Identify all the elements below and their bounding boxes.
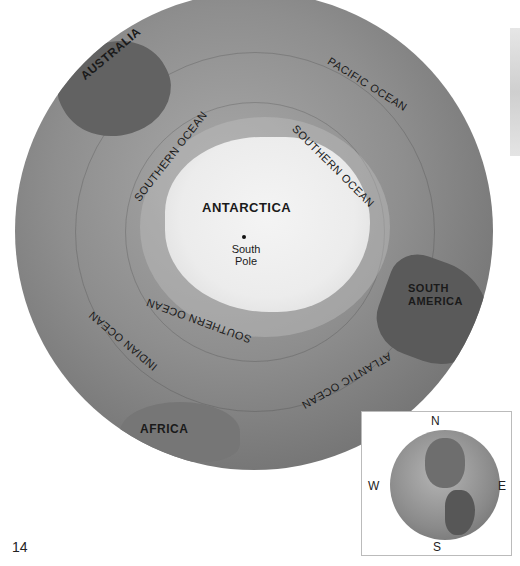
label-africa: AFRICA	[140, 422, 188, 436]
label-south-pole: South Pole	[228, 243, 264, 267]
compass-south: S	[433, 540, 441, 554]
compass-west: W	[368, 479, 379, 493]
south-america-shape	[445, 490, 475, 535]
label-south-america-2: AMERICA	[408, 295, 463, 307]
inset-globe-americas	[390, 430, 500, 540]
label-south-america-1: SOUTH	[408, 282, 449, 294]
compass-east: E	[498, 479, 506, 493]
adjacent-image-strip	[510, 28, 520, 156]
label-antarctica: ANTARCTICA	[202, 200, 291, 215]
orientation-inset: N S E W	[361, 411, 512, 556]
south-pole-marker	[242, 235, 246, 239]
compass-north: N	[431, 414, 440, 428]
page-number: 14	[12, 539, 28, 555]
north-america-shape	[425, 438, 465, 488]
